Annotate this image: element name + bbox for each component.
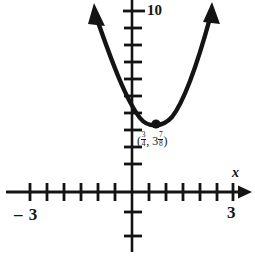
x-axis-tick-label-negative-three: – 3 xyxy=(14,206,38,223)
x-axis-arrowhead xyxy=(238,186,252,199)
parabola-curve-group xyxy=(88,2,220,129)
parabola-right-arrowhead xyxy=(203,2,220,24)
vertex-y-whole: 3 xyxy=(152,134,158,148)
x-axis-group xyxy=(6,183,252,201)
vertex-point-marker xyxy=(151,119,160,128)
parabola-curve xyxy=(98,18,210,125)
parabola-figure: 10 – 3 3 x (34, 378) xyxy=(0,0,255,260)
x-axis-tick-label-three: 3 xyxy=(227,204,236,221)
graph-canvas xyxy=(0,0,255,260)
vertex-coordinate-label: (34, 378) xyxy=(137,131,167,147)
vertex-close-paren: ) xyxy=(163,134,167,148)
y-axis-group xyxy=(123,0,145,252)
x-axis-name-label: x xyxy=(232,166,239,180)
y-axis-tick-label-10: 10 xyxy=(147,3,162,18)
parabola-left-arrowhead xyxy=(88,3,105,26)
